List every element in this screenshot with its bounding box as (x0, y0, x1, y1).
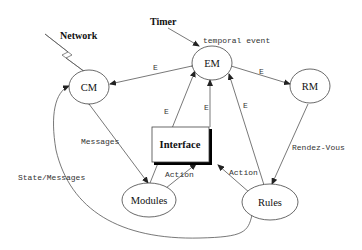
node-rm: RM (290, 69, 330, 103)
edge-label-temporal-event: temporal event (203, 36, 270, 45)
network-label: Network (60, 30, 98, 41)
edge-timer-em (168, 28, 199, 46)
edge-label-rules-em: E (243, 101, 248, 110)
node-rm-label: RM (302, 81, 319, 92)
edge-label-modules-em: E (164, 107, 169, 116)
edge-label-rendez-vous: Rendez-Vous (292, 143, 345, 152)
node-rules: Rules (242, 184, 298, 220)
node-cm: CM (69, 70, 109, 104)
edge-label-state-messages: State/Messages (18, 173, 85, 182)
node-interface: Interface (152, 127, 212, 165)
edge-label-action-rules: Action (229, 168, 258, 177)
node-modules: Modules (122, 183, 176, 217)
node-interface-label: Interface (160, 139, 201, 150)
edge-em-cm (110, 66, 192, 84)
node-cm-label: CM (81, 82, 98, 93)
edge-label-action-modules: Action (165, 170, 194, 179)
edge-label-em-cm: E (153, 63, 158, 72)
node-em-label: EM (204, 58, 220, 69)
node-rules-label: Rules (258, 197, 282, 208)
timer-label: Timer (150, 16, 177, 27)
node-em: EM (192, 46, 232, 80)
edge-label-messages: Messages (81, 137, 120, 146)
architecture-diagram: CM EM RM Interface Modules Rules Timer N… (0, 0, 362, 250)
edge-label-interface-em: E (204, 103, 209, 112)
node-modules-label: Modules (131, 195, 168, 206)
edge-label-em-rm: E (259, 67, 264, 76)
